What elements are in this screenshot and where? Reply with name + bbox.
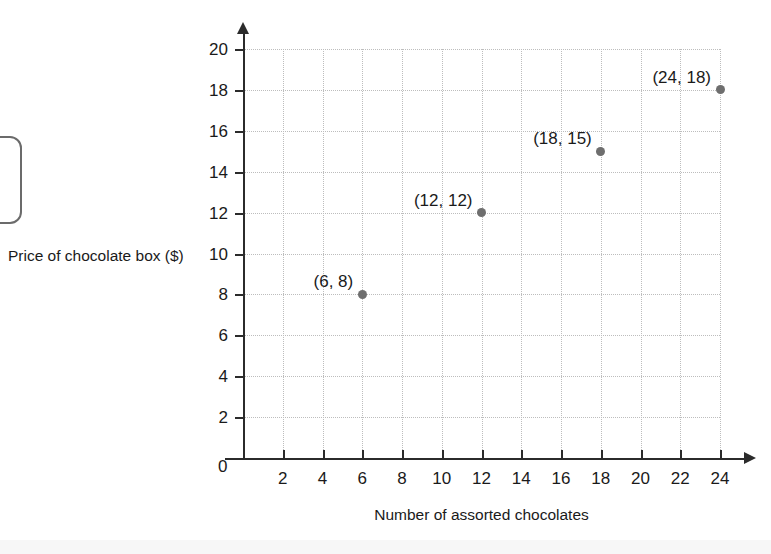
gridline-horizontal bbox=[243, 335, 720, 336]
data-point-label: (6, 8) bbox=[314, 273, 354, 290]
x-axis-tick bbox=[561, 450, 563, 459]
x-axis-tick bbox=[402, 450, 404, 459]
x-axis-tick-label: 18 bbox=[581, 470, 621, 487]
gridline-vertical bbox=[402, 49, 403, 458]
y-axis-tick-label: 14 bbox=[194, 164, 228, 181]
data-point-label: (18, 15) bbox=[533, 130, 592, 147]
gridline-vertical bbox=[561, 49, 562, 458]
x-axis-tick bbox=[641, 450, 643, 459]
x-axis-line bbox=[225, 458, 745, 460]
x-axis-tick-label: 22 bbox=[660, 470, 700, 487]
gridline-vertical bbox=[680, 49, 681, 458]
x-axis-tick-label: 8 bbox=[382, 470, 422, 487]
x-axis-tick-label: 24 bbox=[700, 470, 740, 487]
x-axis-tick bbox=[521, 450, 523, 459]
y-axis-tick-label: 10 bbox=[194, 246, 228, 263]
gridline-horizontal bbox=[243, 49, 720, 50]
y-axis-tick bbox=[235, 376, 244, 378]
gridline-horizontal bbox=[243, 417, 720, 418]
data-point bbox=[596, 147, 605, 156]
y-axis-tick bbox=[235, 254, 244, 256]
data-point bbox=[477, 208, 486, 217]
gridline-vertical bbox=[641, 49, 642, 458]
x-axis-tick bbox=[720, 450, 722, 459]
x-axis-tick-label: 6 bbox=[342, 470, 382, 487]
data-point-label: (12, 12) bbox=[414, 191, 473, 208]
y-axis-tick-label: 6 bbox=[194, 327, 228, 344]
x-axis-tick-label: 16 bbox=[541, 470, 581, 487]
y-axis-tick-label: 20 bbox=[194, 41, 228, 58]
x-axis-tick bbox=[323, 450, 325, 459]
y-axis-tick-label: 12 bbox=[194, 205, 228, 222]
y-axis-tick-label: 8 bbox=[194, 286, 228, 303]
y-axis-tick bbox=[235, 49, 244, 51]
x-axis-tick bbox=[482, 450, 484, 459]
y-axis-tick bbox=[235, 417, 244, 419]
scatter-plot-figure: (6, 8)(12, 12)(18, 15)(24, 18) 0 Price o… bbox=[0, 0, 771, 554]
y-axis-tick bbox=[235, 294, 244, 296]
gridline-vertical bbox=[362, 49, 363, 458]
y-axis-title: Price of chocolate box ($) bbox=[8, 247, 184, 264]
x-axis-tick-label: 10 bbox=[422, 470, 462, 487]
gridline-horizontal bbox=[243, 172, 720, 173]
data-point bbox=[358, 290, 367, 299]
y-axis-tick-label: 16 bbox=[194, 123, 228, 140]
gridline-horizontal bbox=[243, 376, 720, 377]
y-axis-tick bbox=[235, 131, 244, 133]
gridline-horizontal bbox=[243, 131, 720, 132]
gridline-vertical bbox=[521, 49, 522, 458]
data-point bbox=[716, 85, 725, 94]
y-axis-tick bbox=[235, 335, 244, 337]
x-axis-tick bbox=[680, 450, 682, 459]
x-axis-tick bbox=[442, 450, 444, 459]
gridline-horizontal bbox=[243, 254, 720, 255]
x-axis-tick bbox=[362, 450, 364, 459]
x-axis-tick-label: 14 bbox=[501, 470, 541, 487]
data-point-label: (24, 18) bbox=[652, 68, 711, 85]
x-axis-tick-label: 2 bbox=[263, 470, 303, 487]
gridline-vertical bbox=[442, 49, 443, 458]
gridline-vertical bbox=[283, 49, 284, 458]
gridline-vertical bbox=[482, 49, 483, 458]
y-axis-arrow-icon bbox=[237, 22, 249, 34]
gridline-vertical bbox=[323, 49, 324, 458]
y-axis-tick bbox=[235, 90, 244, 92]
gridline-vertical bbox=[601, 49, 602, 458]
y-axis-tick-label: 2 bbox=[194, 409, 228, 426]
gridline-vertical bbox=[720, 49, 721, 458]
gridline-horizontal bbox=[243, 90, 720, 91]
y-axis-tick bbox=[235, 172, 244, 174]
x-axis-tick-label: 4 bbox=[303, 470, 343, 487]
x-axis-tick bbox=[283, 450, 285, 459]
x-axis-arrow-icon bbox=[744, 452, 756, 464]
x-axis-title: Number of assorted chocolates bbox=[243, 506, 720, 523]
origin-label: 0 bbox=[218, 458, 227, 475]
y-axis-tick-label: 4 bbox=[194, 368, 228, 385]
gridline-horizontal bbox=[243, 294, 720, 295]
y-axis-line bbox=[243, 32, 245, 458]
y-axis-tick-label: 18 bbox=[194, 82, 228, 99]
x-axis-tick-label: 20 bbox=[621, 470, 661, 487]
plot-area: (6, 8)(12, 12)(18, 15)(24, 18) bbox=[243, 49, 720, 458]
x-axis-tick bbox=[601, 450, 603, 459]
y-axis-tick bbox=[235, 213, 244, 215]
bottom-band bbox=[0, 540, 771, 554]
x-axis-tick-label: 12 bbox=[462, 470, 502, 487]
